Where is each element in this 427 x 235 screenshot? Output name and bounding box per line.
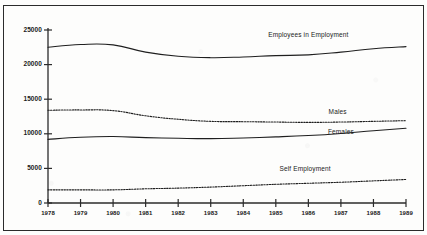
series-line-self-employment [48,179,406,189]
series-label-females: Females [328,129,354,136]
line-chart-plot [0,0,427,235]
x-tick-label: 1982 [164,210,192,216]
y-tick-label: 0 [2,200,42,207]
x-tick-label: 1981 [132,210,160,216]
x-tick-label: 1986 [294,210,322,216]
series-line-employees-in-employment [48,44,406,58]
chart-axes [44,28,406,207]
x-tick-label: 1984 [229,210,257,216]
chart-page: 0500010000150002000025000 19781979198019… [0,0,427,235]
series-label-employees-in-employment: Employees in Employment [268,32,348,39]
y-tick-label: 5000 [2,165,42,172]
x-tick-label: 1983 [197,210,225,216]
x-tick-label: 1985 [262,210,290,216]
x-tick-label: 1987 [327,210,355,216]
x-tick-label: 1980 [99,210,127,216]
x-tick-label: 1978 [34,210,62,216]
y-tick-label: 20000 [2,61,42,68]
y-tick-label: 25000 [2,27,42,34]
y-tick-label: 10000 [2,130,42,137]
x-tick-label: 1989 [392,210,420,216]
series-label-males: Males [329,109,347,116]
chart-series-lines [48,44,406,190]
x-tick-label: 1979 [67,210,95,216]
series-label-self-employment: Self Employment [279,166,330,173]
series-line-males [48,110,406,123]
x-tick-label: 1988 [359,210,387,216]
y-tick-label: 15000 [2,96,42,103]
